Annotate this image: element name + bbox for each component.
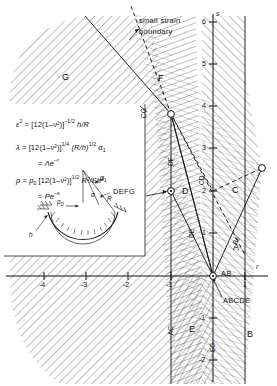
y-tick-label-3: 3 bbox=[202, 144, 206, 151]
small-strain-line2: boundary bbox=[139, 28, 173, 36]
y-tick-label-5: 1 bbox=[202, 229, 206, 236]
eq2-mid-exp: 1/2 bbox=[89, 141, 97, 147]
equation-lambda-alt: = Λe–r bbox=[38, 158, 59, 167]
y-tick-label-2: 4 bbox=[202, 102, 206, 109]
abcde-callout: ABCDE bbox=[223, 297, 250, 305]
equation-lambda: λ = [12(1–ν²)]1/4 (R/h)1/2 α1 bbox=[16, 142, 106, 153]
eq3b-body: Pe bbox=[45, 192, 54, 201]
inset-p0-sub: 0 bbox=[61, 201, 64, 207]
eq2-bracket: [12(1–ν²)] bbox=[29, 143, 62, 152]
region-label-G: G bbox=[62, 73, 69, 82]
equation-pressure: p = p0 [12(1–ν²)]1/2 R²/Eh² bbox=[16, 175, 104, 186]
inset-label-alpha: α bbox=[91, 192, 95, 199]
eq1-lhs-sup: 2 bbox=[19, 118, 22, 124]
curve-label-EG: AC bbox=[168, 326, 175, 335]
eq2-exp: 1/4 bbox=[62, 141, 70, 147]
equation-epsilon: ε2 = [12(1–ν²)]–1/2 h/R bbox=[16, 119, 89, 128]
eq2-lhs: λ bbox=[16, 143, 20, 152]
eq1-tail: h/R bbox=[77, 120, 89, 129]
inset-label-alpha1: α1 bbox=[100, 175, 107, 184]
region-label-B: B bbox=[247, 330, 253, 339]
marker-vertex-right bbox=[259, 165, 266, 172]
eq3b-exp: –s bbox=[54, 190, 60, 196]
marker-vertex-origin-dot bbox=[212, 275, 214, 277]
inset-alpha1-sub: 1 bbox=[104, 177, 107, 183]
eq2-eq: = bbox=[22, 143, 26, 152]
region-label-C: C bbox=[232, 186, 239, 195]
curve-label-DF: DF bbox=[168, 157, 175, 166]
eq3b-eq: = bbox=[38, 192, 42, 201]
eq1-bracket: [12(1–ν²)] bbox=[31, 120, 64, 129]
eq3-exp: 1/2 bbox=[72, 174, 80, 180]
y-tick-label-0: 6 bbox=[202, 18, 206, 25]
inset-label-h: h bbox=[29, 232, 33, 239]
defg-callout: DEFG bbox=[113, 188, 135, 196]
curve-label-CD: CD bbox=[199, 176, 206, 185]
y-tick-label-6: -1 bbox=[199, 314, 205, 321]
x-tick-label-1: -3 bbox=[81, 281, 87, 288]
eq3-bracket: [12(1–ν²)] bbox=[39, 176, 72, 185]
y-tick-label-7: -2 bbox=[199, 356, 205, 363]
x-tick-label-2: -2 bbox=[123, 281, 129, 288]
curve-label-BE: EG bbox=[210, 343, 217, 352]
region-label-E: E bbox=[189, 325, 195, 334]
x-tick-label-4: 1 bbox=[243, 281, 247, 288]
eq1-eq: = bbox=[25, 120, 29, 129]
marker-vertex-defg-dot bbox=[170, 190, 172, 192]
region-label-D: D bbox=[182, 187, 189, 196]
axis-label-s: s bbox=[216, 10, 220, 17]
eq2-tail-sub: 1 bbox=[103, 147, 106, 153]
y-tick-label-1: 5 bbox=[202, 60, 206, 67]
axis-label-r: r bbox=[256, 263, 258, 270]
eq2b-eq: = bbox=[38, 159, 42, 168]
inset-label-R: R bbox=[107, 196, 112, 203]
inset-label-p0: p0 bbox=[57, 199, 64, 208]
y-tick-label-4: 2 bbox=[202, 187, 206, 194]
eq2b-exp: –r bbox=[54, 157, 59, 163]
eq2-mid: (R/h) bbox=[71, 143, 88, 152]
region-label-F: F bbox=[158, 74, 164, 83]
eq2b-body: Λe bbox=[45, 159, 54, 168]
ab-callout: AB bbox=[221, 270, 232, 278]
eq1-exp: –1/2 bbox=[64, 118, 75, 124]
curve-label-CG: CG bbox=[141, 108, 148, 118]
x-tick-label-0: -4 bbox=[39, 281, 45, 288]
x-tick-label-3: -1 bbox=[166, 281, 172, 288]
eq3-lhs: p bbox=[16, 176, 20, 185]
curve-label-DE: DE bbox=[189, 229, 196, 238]
eq3-p0-sub: 0 bbox=[33, 180, 36, 186]
small-strain-line1: small strain bbox=[139, 17, 181, 25]
eq3-eq: = bbox=[22, 176, 26, 185]
marker-vertex-upper bbox=[168, 111, 175, 118]
